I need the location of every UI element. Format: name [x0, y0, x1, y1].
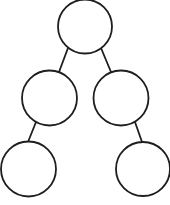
node-circle [22, 71, 77, 126]
tree-node-left-left-grandchild [1, 142, 56, 197]
binary-tree-diagram [0, 0, 170, 205]
node-circle [94, 71, 149, 126]
node-circle [1, 142, 56, 197]
tree-node-right-child [94, 71, 149, 126]
tree-node-left-child [22, 71, 77, 126]
edge-root-to-left-child [59, 48, 68, 72]
tree-node-right-right-grandchild [116, 142, 170, 196]
nodes-group [1, 0, 170, 197]
node-circle [58, 0, 112, 54]
edge-right-child-to-right-right-grandchild [135, 122, 142, 142]
tree-node-root [58, 0, 112, 54]
edge-root-to-right-child [101, 48, 111, 72]
edge-left-child-to-left-left-grandchild [28, 122, 36, 142]
node-circle [116, 142, 170, 196]
